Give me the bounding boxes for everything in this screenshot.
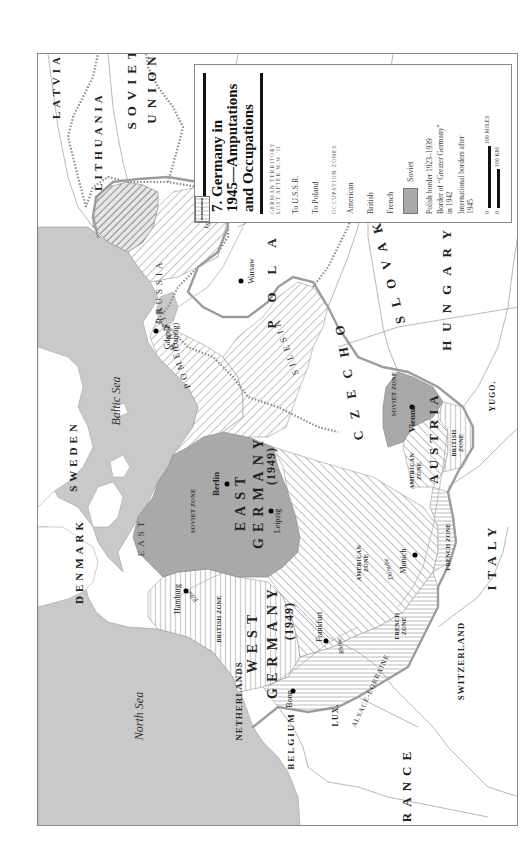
legend-label: International borders after 1945: [457, 119, 476, 214]
legend-label: American: [346, 182, 355, 214]
legend-title-line: 1945—Amputations: [225, 73, 240, 212]
label-french-zone-austria: FRENCH ZONE: [445, 523, 452, 570]
zone-text: BRITISH ZONE: [216, 595, 222, 642]
label-union: UNION: [145, 53, 158, 124]
label-french-zone-germany: FRENCHZONE: [394, 612, 407, 639]
zone-text: AMERICAN: [409, 453, 415, 489]
legend-item-to-ussr: To U.S.S.R.: [287, 73, 303, 214]
legend-item-to-poland: To Poland: [307, 73, 323, 214]
label-hungary: HUNGARY: [440, 221, 453, 351]
scale-km-label: 100 KM: [494, 147, 500, 167]
legend-item-soviet: Soviet: [403, 73, 419, 214]
label-belgium: BELGIUM: [287, 712, 296, 770]
city-dot-hamburg: [184, 589, 189, 594]
zone-text: FRENCH: [394, 612, 400, 639]
legend-item-american: American: [343, 73, 359, 214]
city-dot-berlin: [225, 482, 230, 487]
legend-label: Border of “Greater Germany” in 1942: [436, 119, 455, 214]
label-west: WEST: [246, 609, 260, 673]
legend-title-line: and Occupations: [241, 73, 256, 212]
label-berlin: Berlin: [212, 472, 221, 496]
city-dot-munich: [413, 553, 418, 558]
legend-section-line: LOST AFTER W.W. II: [275, 73, 282, 214]
label-west-germany-year: (1949): [283, 602, 295, 640]
label-north-sea: North Sea: [133, 692, 145, 740]
label-vienna: Vienna: [408, 405, 417, 432]
label-france: FRANCE: [400, 746, 413, 826]
scale-km-bar: [497, 169, 500, 208]
zone-text: FRENCH ZONE: [445, 523, 451, 570]
legend-item-french: French: [383, 73, 399, 214]
legend-title: 7. Germany in 1945—Amputations and Occup…: [203, 73, 263, 214]
legend-section-territory: GERMAN TERRITORY LOST AFTER W.W. II: [269, 73, 282, 214]
scale-miles-bar: [488, 146, 491, 208]
scale-bar: 0 100 MILES 0 100 KM: [484, 73, 510, 214]
label-american-zone-germany: AMERICANZONE: [356, 545, 369, 581]
map-legend: 7. Germany in 1945—Amputations and Occup…: [194, 64, 512, 223]
label-soviet-zone-austria: SOVIET ZONE: [391, 372, 398, 416]
solid-line-icon: [200, 198, 204, 220]
label-soviet-zone-germany: SOVIET ZONE: [190, 489, 197, 533]
label-netherlands: NETHERLANDS: [235, 661, 244, 741]
label-west-germany: GERMANY: [266, 583, 280, 699]
label-yugo: YUGO.: [489, 381, 497, 412]
swatch-soviet-solid: [403, 188, 418, 214]
label-american-zone-austria: AMERICANZONE: [409, 453, 422, 489]
legend-item-british: British: [363, 73, 379, 214]
label-lithuania: LITHUANIA: [93, 91, 104, 191]
label-denmark: DENMARK: [74, 518, 85, 604]
label-soviet: SOVIET: [125, 53, 138, 130]
zone-text: BRITISH: [451, 429, 457, 456]
legend-label: British: [366, 192, 375, 214]
label-lux: LUX.: [332, 704, 340, 727]
label-sweden: SWEDEN: [68, 420, 79, 492]
label-italy: ITALY: [485, 521, 498, 590]
zone-text: ZONE: [401, 617, 407, 635]
label-frankfurt: Frankfurt: [316, 612, 324, 642]
label-munich: Munich: [400, 549, 408, 574]
scale-miles-label: 100 MILES: [484, 115, 490, 144]
legend-title-line: 7. Germany in: [210, 73, 225, 212]
label-leipzig: Leipzig: [274, 509, 282, 533]
legend-item-polish-border: Polish border 1923–1939: [425, 73, 434, 214]
city-dot-gdansk: [154, 329, 159, 334]
label-british-zone-austria: BRITISHZONE: [451, 429, 464, 456]
label-warsaw: Warsaw: [248, 258, 256, 284]
city-dot-warsaw: [239, 279, 244, 284]
label-bonn: Bonn: [286, 690, 294, 707]
label-austria: AUSTRIA: [427, 390, 440, 484]
city-dot-frankfurt: [324, 639, 329, 644]
legend-section-line: GERMAN TERRITORY: [269, 73, 276, 214]
zone-text: ZONE: [363, 554, 369, 572]
map-canvas: LATVIA LITHUANIA SOVIET UNION SWEDEN DEN…: [38, 54, 518, 826]
zone-text: AMERICAN: [356, 545, 362, 581]
legend-label: Polish border 1923–1939: [425, 138, 434, 214]
zone-text: ZONE: [416, 462, 422, 480]
label-baltic-sea: Baltic Sea: [110, 377, 122, 426]
zone-text: ZONE: [458, 434, 464, 452]
zone-text: SOVIET ZONE: [391, 372, 397, 416]
label-east-germany-year: (1949): [265, 447, 277, 485]
legend-label: French: [386, 192, 395, 214]
label-hamburg: Hamburg: [174, 584, 182, 614]
legend-section-zones: OCCUPATION ZONES: [331, 73, 338, 214]
legend-label: To Poland: [311, 181, 320, 214]
label-east-prussia-1: EAST: [137, 518, 146, 557]
legend-label: To U.S.S.R.: [291, 176, 300, 214]
legend-item-greater-germany-border: Border of “Greater Germany” in 1942: [436, 73, 455, 214]
legend-label: Soviet: [406, 162, 415, 182]
scale-km-zero: 0: [494, 211, 500, 214]
scale-miles-zero: 0: [484, 211, 490, 214]
zone-text: SOVIET ZONE: [190, 489, 196, 533]
legend-item-international-border: International borders after 1945: [457, 73, 476, 214]
label-switzerland: SWITZERLAND: [457, 622, 466, 701]
label-latvia: LATVIA: [51, 53, 62, 119]
label-danzig: (Danzig): [172, 323, 180, 351]
label-british-zone-germany: BRITISH ZONE: [216, 595, 223, 642]
map-frame: LATVIA LITHUANIA SOVIET UNION SWEDEN DEN…: [37, 53, 518, 826]
label-east: EAST: [234, 471, 248, 532]
